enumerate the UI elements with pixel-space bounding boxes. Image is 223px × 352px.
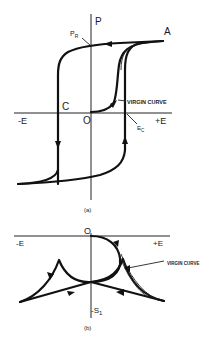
figure-a: P A PR C -E O +E EC VIRGIN CURVE (a) (14, 14, 172, 213)
label-virgin-a: VIRGIN CURVE (127, 99, 167, 105)
caption-b: (b) (84, 325, 91, 331)
label-pos-e-a: +E (155, 116, 166, 126)
arrow-left-top (104, 41, 112, 47)
label-neg-e-b: -E (16, 239, 24, 248)
virgin-parallel-b2 (121, 254, 158, 300)
butterfly-left-wing (20, 260, 91, 302)
hysteresis-figure: P A PR C -E O +E EC VIRGIN CURVE (a) (0, 0, 223, 352)
label-c: C (62, 101, 69, 112)
virgin-curve-parallel (121, 43, 140, 70)
label-origin-a: O (83, 115, 91, 126)
label-a: A (164, 26, 171, 37)
label-pr: PR (70, 30, 79, 39)
arrow-down-left (55, 141, 61, 149)
label-neg-e-a: -E (18, 116, 27, 126)
pr-pointer (82, 38, 91, 46)
label-pos-e-b: +E (153, 239, 163, 248)
virgin-pointer-b (128, 261, 164, 268)
label-neg-s1: -S1 (91, 306, 103, 316)
ec-pointer (127, 114, 137, 124)
figure-b: O -E +E VIRGIN CURVE -S1 (b) (14, 226, 199, 331)
arrow-up-right (122, 136, 128, 144)
label-ec: EC (137, 125, 145, 133)
caption-a: (a) (84, 207, 91, 213)
label-origin-b: O (84, 226, 91, 236)
arrow-b-4 (67, 291, 75, 296)
label-virgin-b: VIRGIN CURVE (167, 261, 199, 266)
label-p: P (95, 16, 102, 27)
